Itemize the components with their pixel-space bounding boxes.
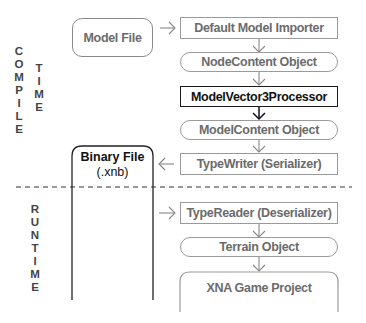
type-reader-label: TypeReader (Deserializer) [186,206,331,220]
arrow-left-icon [159,158,174,170]
node-content-box: NodeContent Object [180,52,338,72]
type-reader-box: TypeReader (Deserializer) [180,202,338,224]
importer-box: Default Model Importer [180,17,338,39]
binary-file-box: Binary File (.xnb) [72,150,153,180]
game-project-label: XNA Game Project [206,281,311,295]
time-label: TIME [34,62,44,114]
time-word: TIME [34,62,44,114]
runtime-word: RUNTIME [30,203,40,294]
runtime-label: RUNTIME [30,203,40,294]
terrain-object-box: Terrain Object [180,237,338,257]
model-file-box: Model File [72,18,153,57]
model-content-label: ModelContent Object [199,123,319,137]
compile-word: COMPILE [14,45,24,136]
model-file-label: Model File [83,31,141,45]
arrow-icon [160,22,175,34]
binary-file-label: Binary File [72,150,153,165]
arrow-right-icon [159,207,175,219]
binary-file-ext: (.xnb) [72,165,153,180]
game-project-box: XNA Game Project [180,278,338,298]
model-content-box: ModelContent Object [180,120,338,140]
importer-label: Default Model Importer [194,21,324,35]
node-content-label: NodeContent Object [201,55,316,69]
terrain-object-label: Terrain Object [219,240,299,254]
type-writer-box: TypeWriter (Serializer) [180,153,338,175]
processor-box: ModelVector3Processor [180,86,338,107]
type-writer-label: TypeWriter (Serializer) [197,157,322,171]
processor-label: ModelVector3Processor [191,90,327,104]
compile-label: COMPILE [14,45,24,136]
